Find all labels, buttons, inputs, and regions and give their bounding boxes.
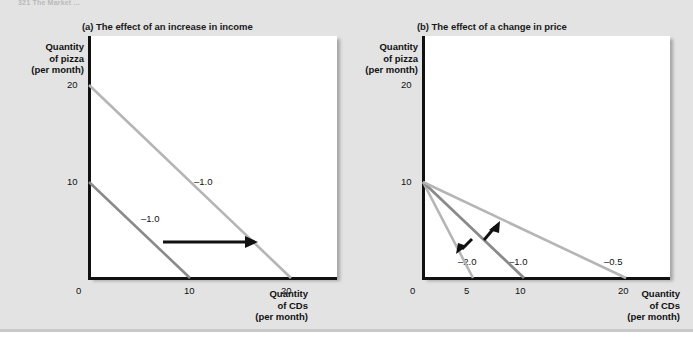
panel-a-x-axis-title-line2: of CDs — [228, 300, 308, 312]
panel-b-x-axis — [422, 277, 670, 280]
panel-a-y-axis-title-line3: (per month) — [16, 64, 84, 76]
panel-b-y-tick-10: 10 — [401, 176, 412, 187]
panel-b-y-axis-title: Quantity of pizza (per month) — [350, 41, 418, 76]
panel-a-plot-area — [90, 36, 337, 278]
panel-a-title: (a) The effect of an increase in income — [82, 21, 253, 32]
panel-a-y-tick-20: 20 — [67, 79, 78, 90]
panel-b-x-axis-title-line2: of CDs — [600, 300, 680, 312]
panel-a-x-tick-0: 0 — [76, 285, 81, 296]
panel-a-y-axis-title-line2: of pizza — [16, 53, 84, 65]
panel-a-y-axis — [88, 36, 91, 280]
figure-backdrop-edge — [0, 329, 693, 332]
panel-a-slope-label-inner: –1.0 — [141, 213, 160, 224]
panel-b-x-tick-20: 20 — [618, 285, 629, 296]
panel-b-slope-label-shallow: –0.5 — [604, 256, 623, 267]
panel-b-x-axis-title-line3: (per month) — [600, 311, 680, 323]
panel-b-x-tick-0: 0 — [410, 285, 415, 296]
panel-b-plot-area — [424, 36, 670, 278]
panel-b-y-axis — [422, 36, 425, 280]
panel-b-x-axis-title-line1: Quantity — [600, 288, 680, 300]
panel-a-x-axis-title-line1: Quantity — [228, 288, 308, 300]
panel-b-y-axis-title-line2: of pizza — [350, 53, 418, 65]
panel-a-x-tick-10: 10 — [184, 285, 195, 296]
figure-container: 321 The Market ... (a) The effect of an … — [0, 0, 693, 350]
panel-b-x-tick-5: 5 — [464, 285, 469, 296]
panel-a-x-axis — [88, 277, 337, 280]
panel-b-x-axis-title: Quantity of CDs (per month) — [600, 288, 680, 323]
panel-a-x-axis-title: Quantity of CDs (per month) — [228, 288, 308, 323]
panel-b-y-tick-20: 20 — [401, 79, 412, 90]
panel-a-y-axis-title-line1: Quantity — [16, 41, 84, 53]
panel-a-slope-label-outer: –1.0 — [194, 176, 213, 187]
panel-a-x-axis-title-line3: (per month) — [228, 311, 308, 323]
running-head: 321 The Market ... — [18, 0, 80, 6]
panel-b-y-axis-title-line3: (per month) — [350, 64, 418, 76]
panel-a-y-axis-title: Quantity of pizza (per month) — [16, 41, 84, 76]
panel-b-title: (b) The effect of a change in price — [417, 21, 567, 32]
panel-a-x-tick-20: 20 — [281, 285, 292, 296]
panel-a-y-tick-10: 10 — [67, 176, 78, 187]
panel-b-slope-label-steep: –2.0 — [458, 256, 477, 267]
panel-b-slope-label-middle: –1.0 — [509, 256, 528, 267]
panel-b-y-axis-title-line1: Quantity — [350, 41, 418, 53]
panel-b-x-tick-10: 10 — [515, 285, 526, 296]
